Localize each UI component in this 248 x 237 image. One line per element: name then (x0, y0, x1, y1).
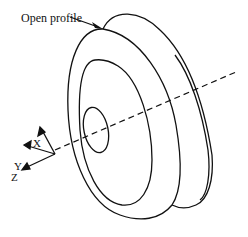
front-flange-outline (68, 29, 180, 219)
groove-ring (79, 60, 152, 205)
pulley-diagram (0, 0, 248, 237)
hub-bore (79, 105, 112, 155)
rear-rim-outline (103, 14, 212, 208)
callout-label: Open profile (21, 12, 82, 24)
z-axis-label: Z (11, 172, 18, 183)
x-axis-label: X (33, 138, 41, 149)
y-axis-arrowhead (24, 141, 31, 149)
z-axis-arrowhead (22, 163, 30, 170)
